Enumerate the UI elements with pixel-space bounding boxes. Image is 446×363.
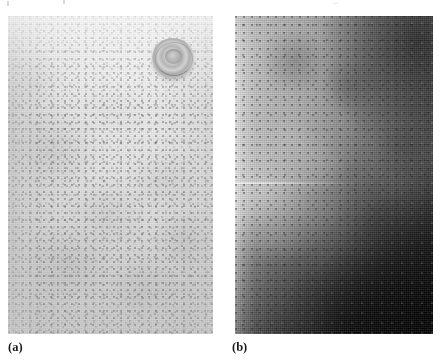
figure-root: (a) (b) [0, 0, 446, 363]
panel-b-rash-speckle [235, 16, 433, 334]
scan-artifact-speck [333, 3, 338, 4]
panel-b-shadow-regions [235, 16, 433, 334]
panel-b-caption: (b) [232, 341, 247, 354]
panel-b-rash-speckle [235, 16, 433, 334]
scan-artifact-speck [7, 1, 9, 6]
figure-panel-b [235, 16, 433, 334]
panel-a-nipple-areola [152, 38, 194, 78]
panel-b-light-streak [235, 182, 358, 184]
scan-artifact-speck [63, 0, 65, 4]
figure-panel-a [8, 16, 213, 334]
panel-b-film-grain [235, 16, 433, 334]
panel-b-mottling [235, 16, 433, 334]
panel-b-highlight-band [235, 16, 433, 334]
panel-b-skin-base [235, 16, 433, 334]
panel-a-caption: (a) [8, 341, 23, 354]
panel-a-nipple-core [165, 49, 182, 64]
